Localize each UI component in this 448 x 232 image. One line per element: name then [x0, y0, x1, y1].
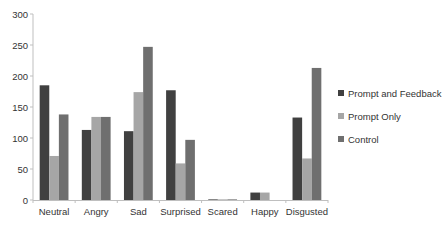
bar	[40, 85, 50, 200]
x-tick-label: Scared	[208, 206, 238, 217]
x-tick-label: Happy	[251, 206, 279, 217]
bar	[134, 92, 144, 200]
bar	[218, 199, 228, 200]
y-tick-label: 50	[17, 164, 28, 175]
bar	[312, 68, 322, 200]
legend-swatch-icon	[338, 90, 344, 96]
bar	[250, 193, 260, 200]
y-tick-label: 150	[12, 102, 28, 113]
y-tick-label: 0	[23, 195, 28, 206]
legend-item-control: Control	[338, 132, 441, 146]
legend-label: Prompt Only	[348, 111, 401, 122]
bar	[143, 47, 153, 200]
bar	[185, 140, 195, 200]
legend-swatch-icon	[338, 113, 344, 119]
x-tick-label: Sad	[130, 206, 147, 217]
bar	[101, 117, 111, 200]
bar	[166, 90, 176, 200]
bar	[260, 193, 270, 200]
x-tick-label: Angry	[84, 206, 109, 217]
x-tick-label: Disgusted	[286, 206, 328, 217]
bar	[82, 130, 92, 200]
bar	[49, 156, 59, 200]
y-tick-label: 250	[12, 40, 28, 51]
bar	[176, 163, 186, 200]
legend-item-prompt-only: Prompt Only	[338, 109, 441, 123]
legend-label: Prompt and Feedback	[348, 88, 441, 99]
bar	[124, 131, 134, 200]
y-tick-label: 200	[12, 71, 28, 82]
y-axis: 050100150200250300	[12, 9, 33, 206]
bar-chart: 050100150200250300 NeutralAngrySadSurpri…	[0, 0, 448, 232]
bar	[227, 199, 237, 200]
y-tick-label: 100	[12, 133, 28, 144]
bars	[40, 47, 322, 200]
x-tick-label: Surprised	[160, 206, 201, 217]
x-axis: NeutralAngrySadSurprisedScaredHappyDisgu…	[33, 200, 328, 217]
bar	[91, 117, 101, 200]
bar	[293, 118, 303, 200]
bar	[208, 199, 218, 200]
y-tick-label: 300	[12, 9, 28, 20]
legend: Prompt and Feedback Prompt Only Control	[338, 86, 441, 146]
legend-item-prompt-and-feedback: Prompt and Feedback	[338, 86, 441, 100]
x-tick-label: Neutral	[39, 206, 70, 217]
bar	[59, 114, 69, 200]
bar	[302, 158, 312, 200]
legend-swatch-icon	[338, 136, 344, 142]
legend-label: Control	[348, 134, 379, 145]
